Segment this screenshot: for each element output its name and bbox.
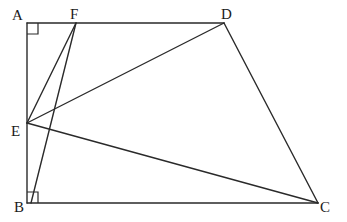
segment-EF	[27, 23, 76, 123]
right-angle-marker-A	[27, 23, 38, 34]
label-D: D	[221, 6, 232, 22]
segment-ED	[27, 23, 224, 123]
label-C: C	[320, 199, 330, 215]
label-E: E	[11, 123, 20, 139]
label-F: F	[70, 6, 78, 22]
segment-DC	[224, 23, 318, 203]
geometry-diagram: A F D E B C	[0, 0, 347, 222]
label-A: A	[12, 7, 23, 23]
label-B: B	[14, 199, 24, 215]
segment-EC	[27, 123, 318, 203]
segment-FB	[31, 23, 76, 203]
